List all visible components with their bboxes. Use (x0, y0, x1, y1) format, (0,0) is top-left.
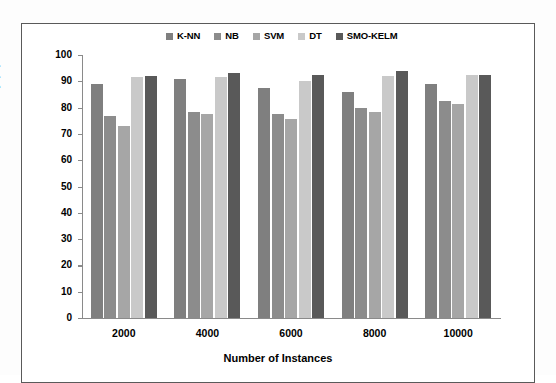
legend-item-nb[interactable]: NB (214, 31, 239, 41)
bar-svm-6000[interactable] (285, 119, 297, 318)
bar-dt-10000[interactable] (466, 75, 478, 318)
bar-k-nn-8000[interactable] (342, 92, 354, 318)
bar-group-8000 (342, 55, 408, 318)
x-axis-title: Number of Instances (0, 352, 556, 364)
legend-swatch-icon (253, 33, 260, 40)
bar-svm-2000[interactable] (118, 126, 130, 318)
bar-group-6000 (258, 55, 324, 318)
bar-group-2000 (91, 55, 157, 318)
legend-swatch-icon (166, 33, 173, 40)
y-tick-label: 10 (61, 286, 72, 297)
y-tick-label: 50 (61, 181, 72, 192)
legend-item-svm[interactable]: SVM (253, 31, 284, 41)
x-tick-label: 8000 (333, 327, 417, 339)
bar-nb-8000[interactable] (355, 108, 367, 318)
bar-smo-kelm-2000[interactable] (145, 76, 157, 318)
bar-svm-10000[interactable] (452, 104, 464, 318)
legend-label: SVM (264, 31, 284, 41)
bar-k-nn-4000[interactable] (174, 79, 186, 318)
y-tick-label: 70 (61, 128, 72, 139)
bar-nb-6000[interactable] (272, 114, 284, 318)
legend-item-dt[interactable]: DT (298, 31, 321, 41)
legend-label: NB (225, 31, 239, 41)
bar-dt-2000[interactable] (131, 77, 143, 318)
bar-dt-4000[interactable] (215, 77, 227, 318)
bar-nb-10000[interactable] (439, 101, 451, 318)
bar-k-nn-2000[interactable] (91, 84, 103, 318)
x-tick-label: 2000 (82, 327, 166, 339)
legend-swatch-icon (298, 33, 305, 40)
bar-k-nn-6000[interactable] (258, 88, 270, 318)
bar-dt-8000[interactable] (382, 76, 394, 318)
bar-dt-6000[interactable] (299, 81, 311, 318)
bar-smo-kelm-8000[interactable] (396, 71, 408, 318)
bar-k-nn-10000[interactable] (425, 84, 437, 318)
y-tick-label: 60 (61, 154, 72, 165)
legend-item-smo-kelm[interactable]: SMO-KELM (336, 31, 398, 41)
bar-group-4000 (174, 55, 240, 318)
legend-item-k-nn[interactable]: K-NN (166, 31, 200, 41)
y-tick-label: 0 (66, 312, 72, 323)
bar-smo-kelm-6000[interactable] (312, 75, 324, 318)
y-tick-label: 80 (61, 102, 72, 113)
x-tick-label: 10000 (416, 327, 500, 339)
y-tick-label: 100 (55, 49, 72, 60)
chart-legend: K-NNNBSVMDTSMO-KELM (166, 29, 398, 43)
x-tick-label: 4000 (166, 327, 250, 339)
y-tick-label: 90 (61, 75, 72, 86)
bar-smo-kelm-4000[interactable] (228, 73, 240, 318)
x-axis-line (82, 318, 501, 319)
legend-label: SMO-KELM (347, 31, 398, 41)
bar-svm-8000[interactable] (369, 112, 381, 318)
bar-smo-kelm-10000[interactable] (479, 75, 491, 318)
legend-swatch-icon (336, 33, 343, 40)
legend-label: K-NN (177, 31, 200, 41)
bar-nb-2000[interactable] (104, 116, 116, 319)
bar-svm-4000[interactable] (201, 114, 213, 318)
y-tick-mark (78, 318, 82, 319)
legend-swatch-icon (214, 33, 221, 40)
x-tick-label: 6000 (249, 327, 333, 339)
y-tick-label: 40 (61, 207, 72, 218)
y-tick-label: 20 (61, 259, 72, 270)
bar-group-10000 (425, 55, 491, 318)
legend-label: DT (309, 31, 321, 41)
y-tick-label: 30 (61, 233, 72, 244)
bar-nb-4000[interactable] (188, 112, 200, 318)
plot-area (82, 55, 500, 318)
